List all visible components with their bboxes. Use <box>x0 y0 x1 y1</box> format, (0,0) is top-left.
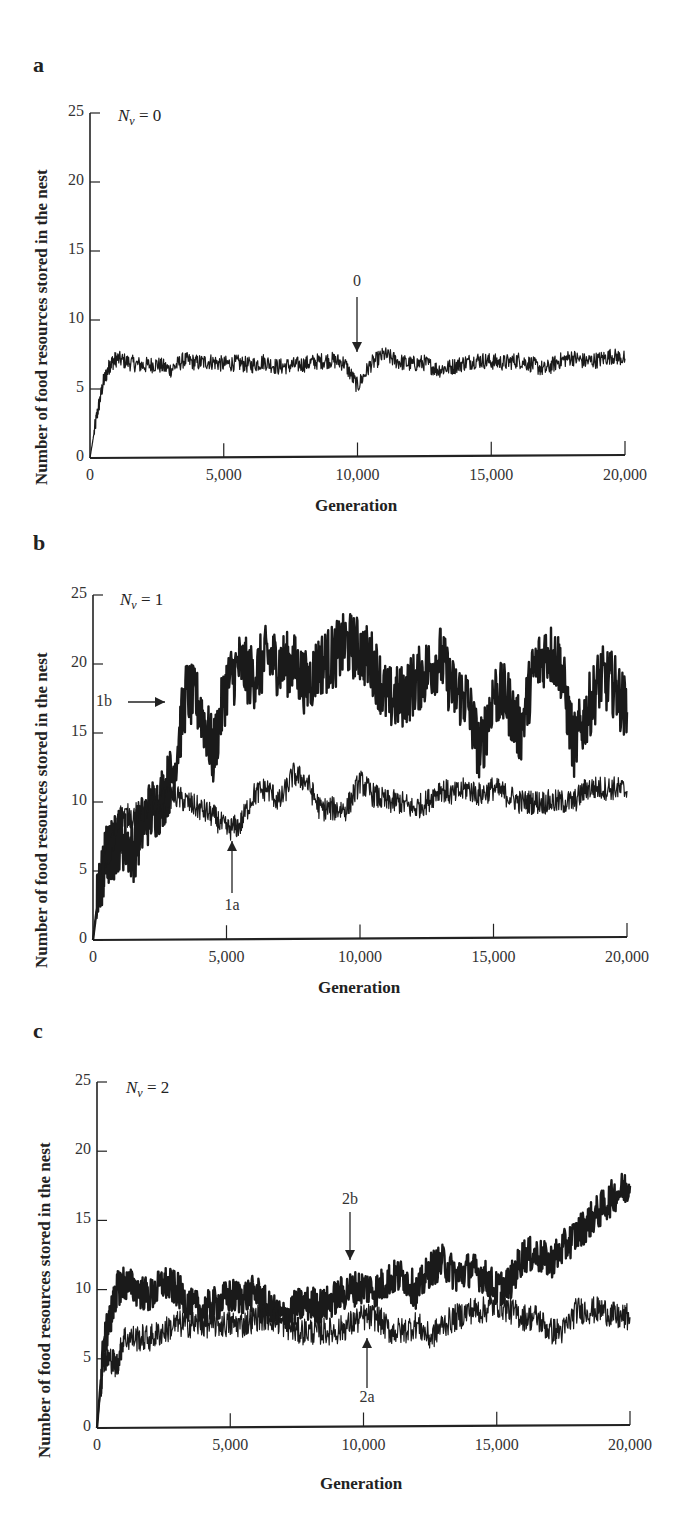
x-axis-label: Generation <box>320 1474 402 1494</box>
annotation-label-2b: 2b <box>342 1190 358 1208</box>
y-tick-label: 25 <box>75 1071 91 1089</box>
x-tick-label: 15,000 <box>475 1436 519 1454</box>
panel-c: c Number of food resources stored in the… <box>0 0 684 1516</box>
series-line-2a <box>97 1292 630 1428</box>
y-tick-label: 15 <box>75 1209 91 1227</box>
plot-area <box>0 0 684 1516</box>
y-tick-label: 5 <box>83 1348 91 1366</box>
x-tick-label: 20,000 <box>608 1436 652 1454</box>
annotation-label-2a: 2a <box>359 1388 374 1406</box>
x-tick-label: 0 <box>93 1436 101 1454</box>
y-tick-label: 10 <box>75 1279 91 1297</box>
y-tick-label: 0 <box>83 1417 91 1435</box>
y-tick-label: 20 <box>75 1140 91 1158</box>
x-tick-label: 10,000 <box>342 1436 386 1454</box>
x-tick-label: 5,000 <box>212 1436 248 1454</box>
